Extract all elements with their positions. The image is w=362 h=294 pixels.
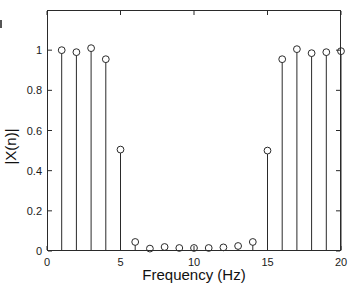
stem-marker-circle bbox=[220, 244, 227, 251]
stem-marker-circle bbox=[294, 46, 301, 53]
stem-marker-circle bbox=[308, 50, 315, 57]
stem-marker-circle bbox=[73, 49, 80, 56]
y-axis-label: |X(n)| bbox=[2, 77, 19, 217]
scan-artifact-mark bbox=[0, 20, 2, 28]
stem-plot bbox=[47, 10, 341, 251]
stem-marker-circle bbox=[264, 147, 271, 154]
y-tick-label: 0.6 bbox=[16, 125, 42, 137]
y-tick-label: 0 bbox=[16, 245, 42, 257]
stem-marker-circle bbox=[132, 239, 139, 246]
stem-marker-circle bbox=[279, 56, 286, 63]
stem-marker-circle bbox=[323, 49, 330, 56]
figure-canvas: |X(n)| 05101520 00.20.40.60.81 Frequency… bbox=[0, 0, 362, 294]
stem-marker-circle bbox=[249, 239, 256, 246]
stem-marker-circle bbox=[58, 47, 65, 54]
y-tick-label: 1 bbox=[16, 44, 42, 56]
y-tick-label: 0.8 bbox=[16, 84, 42, 96]
stem-marker-circle bbox=[235, 243, 242, 250]
plot-area bbox=[47, 10, 341, 251]
stem-marker-circle bbox=[88, 45, 95, 52]
stem-marker-circle bbox=[102, 56, 109, 63]
stem-marker-circle bbox=[161, 244, 168, 251]
y-tick-label: 0.4 bbox=[16, 165, 42, 177]
y-tick-label: 0.2 bbox=[16, 205, 42, 217]
x-axis-label: Frequency (Hz) bbox=[47, 266, 341, 283]
stem-marker-circle bbox=[117, 146, 124, 153]
